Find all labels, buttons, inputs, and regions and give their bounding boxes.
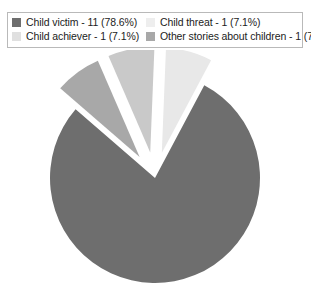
legend-grid: Child victim - 11 (78.6%) Child threat -… bbox=[12, 16, 298, 43]
legend-label-other-stories-about-children: Other stories about children - 1 (7.1%) bbox=[160, 30, 311, 43]
legend-label-child-threat: Child threat - 1 (7.1%) bbox=[160, 16, 260, 29]
pie-plot-area bbox=[0, 50, 311, 304]
legend-swatch-child-achiever bbox=[12, 32, 21, 41]
legend-item-other-stories-about-children[interactable]: Other stories about children - 1 (7.1%) bbox=[146, 30, 311, 43]
pie-chart-figure: Child victim - 11 (78.6%) Child threat -… bbox=[0, 0, 311, 304]
pie-slice-group bbox=[50, 50, 260, 283]
legend-label-child-victim: Child victim - 11 (78.6%) bbox=[26, 16, 137, 29]
legend-item-child-victim[interactable]: Child victim - 11 (78.6%) bbox=[12, 16, 140, 29]
pie-slice-child-victim[interactable] bbox=[50, 85, 260, 283]
legend-label-child-achiever: Child achiever - 1 (7.1%) bbox=[26, 30, 139, 43]
pie-svg bbox=[0, 50, 311, 304]
legend-swatch-child-victim bbox=[12, 18, 21, 27]
legend-swatch-other-stories-about-children bbox=[146, 32, 155, 41]
legend-item-child-threat[interactable]: Child threat - 1 (7.1%) bbox=[146, 16, 311, 29]
legend-item-child-achiever[interactable]: Child achiever - 1 (7.1%) bbox=[12, 30, 140, 43]
chart-legend: Child victim - 11 (78.6%) Child threat -… bbox=[7, 12, 303, 48]
legend-swatch-child-threat bbox=[146, 18, 155, 27]
